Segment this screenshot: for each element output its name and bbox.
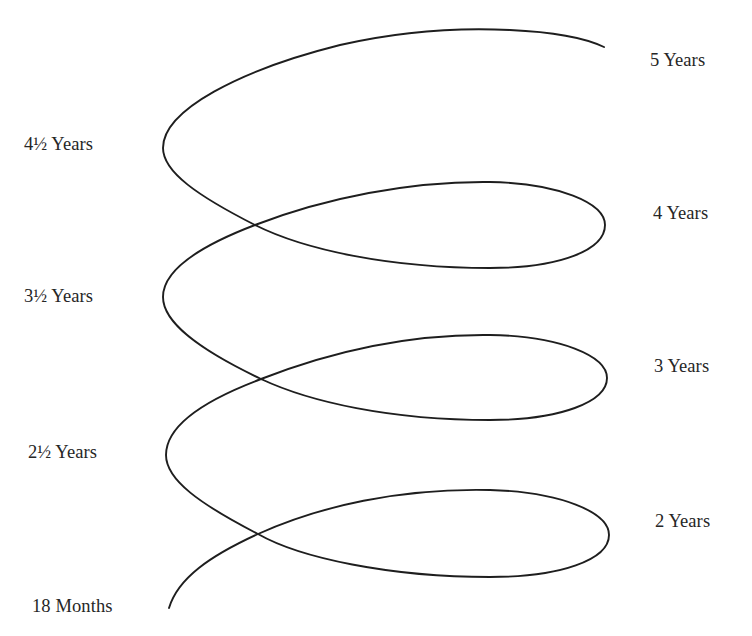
- label-five-years: 5 Years: [650, 51, 705, 70]
- label-two-years: 2 Years: [655, 512, 710, 531]
- label-two-and-half-years: 2½ Years: [28, 443, 97, 462]
- label-eighteen-months: 18 Months: [32, 597, 113, 616]
- label-four-and-half-years: 4½ Years: [24, 135, 93, 154]
- label-three-and-half-years: 3½ Years: [24, 287, 93, 306]
- label-three-years: 3 Years: [654, 357, 709, 376]
- development-spiral-line: [163, 29, 609, 608]
- label-four-years: 4 Years: [653, 204, 708, 223]
- spiral-curve-canvas: [0, 0, 752, 636]
